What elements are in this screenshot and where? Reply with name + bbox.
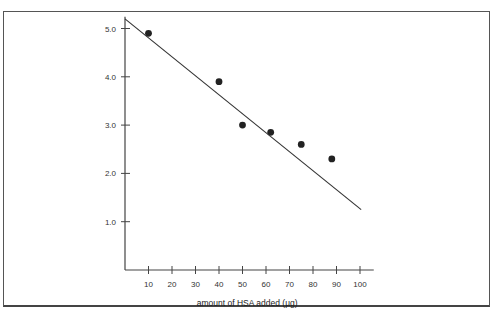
data-point [328, 156, 335, 163]
fit-line [125, 19, 361, 210]
x-axis-title: amount of HSA added (µg) [197, 298, 298, 308]
y-tick-label: 5.0 [105, 25, 117, 34]
x-tick-label: 30 [191, 280, 200, 289]
x-tick-label: 50 [238, 280, 247, 289]
data-point [298, 141, 305, 148]
scatter-chart: 1.02.03.04.05.0102030405060708090100amou… [0, 0, 495, 315]
data-point [239, 122, 246, 129]
y-tick-label: 3.0 [105, 121, 117, 130]
x-tick-label: 60 [262, 280, 271, 289]
data-point [216, 78, 223, 85]
x-tick-label: 90 [332, 280, 341, 289]
x-tick-label: 40 [215, 280, 224, 289]
x-tick-label: 70 [285, 280, 294, 289]
y-tick-label: 1.0 [105, 218, 117, 227]
y-tick-label: 4.0 [105, 73, 117, 82]
x-tick-label: 10 [144, 280, 153, 289]
x-tick-label: 20 [168, 280, 177, 289]
x-tick-label: 80 [309, 280, 318, 289]
y-tick-label: 2.0 [105, 169, 117, 178]
x-tick-label: 100 [353, 280, 367, 289]
